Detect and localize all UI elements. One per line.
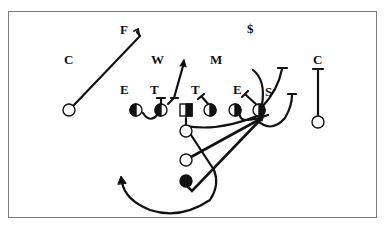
label-E-right: E [233,82,242,97]
play-diagram: F $ C W M C E T T E S [0,0,389,225]
label-E-left: E [120,82,129,97]
player-wr-right [312,116,324,128]
route-te-curl [253,70,263,105]
player-rt [229,104,241,116]
route-fb [191,118,262,157]
route-wr-left [74,32,140,105]
label-F: F [120,22,128,37]
player-lt [130,104,142,116]
player-rg [204,104,216,116]
player-center [180,104,192,116]
player-qb [180,125,192,137]
route-tb [188,118,262,191]
player-te [253,104,265,116]
route-climb-to-W-arrowhead [180,60,186,67]
defense-labels: F $ C W M C E T T E S [64,21,322,99]
label-C-left: C [64,52,73,67]
player-wr-left [63,104,75,116]
route-qb-arrowhead [118,176,126,184]
label-M: M [210,52,222,67]
label-T-left: T [150,82,159,97]
player-tb [180,175,192,187]
label-T-right: T [191,82,200,97]
label-C-right: C [313,52,322,67]
route-qb [122,135,216,213]
player-fb [180,154,192,166]
label-W: W [151,52,164,67]
label-dollar: $ [247,21,254,36]
player-lg [155,104,167,116]
routes [74,29,323,213]
